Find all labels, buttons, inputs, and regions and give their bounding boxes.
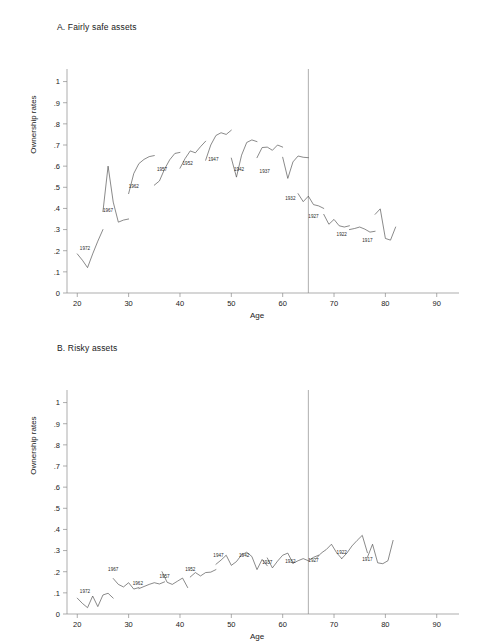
cohort-label: 1922 [337, 232, 348, 237]
y-tick-label: .5 [54, 183, 60, 192]
cohort-label: 1957 [157, 167, 168, 172]
figure-page: A. Fairly safe assets Ownership rates 0.… [0, 0, 484, 642]
panel-a-plot: 0.1.2.3.4.5.6.7.8.912030405060708090Age … [0, 0, 484, 321]
x-tick-label: 40 [176, 299, 184, 308]
x-tick-label: 20 [73, 620, 81, 629]
y-tick-label: .8 [54, 120, 60, 129]
x-axis-title: Age [250, 632, 265, 641]
y-tick-label: .9 [54, 420, 60, 429]
x-tick-label: 30 [124, 620, 132, 629]
cohort-label: 1932 [285, 559, 296, 564]
series-cohort-1947 [206, 130, 232, 160]
cohort-label: 1937 [262, 560, 273, 565]
cohort-label: 1917 [362, 238, 373, 243]
y-tick-label: .3 [54, 546, 60, 555]
series-cohort-1967 [103, 166, 129, 222]
x-tick-label: 20 [73, 299, 81, 308]
x-tick-label: 80 [381, 299, 389, 308]
series-cohort-1972 [77, 593, 113, 607]
cohort-label: 1932 [285, 196, 296, 201]
y-tick-label: .6 [54, 483, 60, 492]
x-tick-label: 30 [124, 299, 132, 308]
cohort-label: 1942 [234, 167, 245, 172]
y-tick-label: .2 [54, 568, 60, 577]
cohort-label: 1947 [208, 157, 219, 162]
panel-b-plot: 0.1.2.3.4.5.6.7.8.912030405060708090Age … [0, 321, 484, 642]
x-tick-label: 40 [176, 620, 184, 629]
cohort-label: 1942 [239, 553, 250, 558]
cohort-label: 1937 [260, 169, 271, 174]
series-cohort-1917 [349, 227, 375, 232]
series-cohort-1937 [257, 145, 283, 158]
cohort-label: 1962 [129, 184, 140, 189]
cohort-label: 1952 [183, 161, 194, 166]
panel-fairly-safe-assets: A. Fairly safe assets Ownership rates 0.… [0, 0, 484, 321]
cohort-label: 1952 [185, 567, 196, 572]
cohort-label: 1972 [80, 246, 91, 251]
series-cohort-1922 [324, 214, 350, 227]
series-cohort-1927 [298, 194, 324, 209]
y-tick-label: .7 [54, 141, 60, 150]
y-tick-label: 1 [56, 398, 60, 407]
y-tick-label: .8 [54, 441, 60, 450]
x-tick-label: 80 [381, 620, 389, 629]
y-tick-label: 0 [56, 610, 60, 619]
y-tick-label: .4 [54, 204, 60, 213]
cohort-label: 1927 [308, 214, 319, 219]
y-tick-label: .7 [54, 462, 60, 471]
y-tick-label: .6 [54, 162, 60, 171]
cohort-label: 1947 [213, 553, 224, 558]
x-tick-label: 60 [279, 620, 287, 629]
x-tick-label: 50 [227, 620, 235, 629]
x-tick-label: 60 [279, 299, 287, 308]
cohort-label: 1967 [108, 567, 119, 572]
y-tick-label: 1 [56, 77, 60, 86]
cohort-label: 1917 [362, 557, 373, 562]
y-tick-label: .2 [54, 247, 60, 256]
y-tick-label: .5 [54, 504, 60, 513]
series-cohort-tail [375, 209, 396, 240]
y-tick-label: 0 [56, 289, 60, 298]
x-tick-label: 70 [330, 299, 338, 308]
y-tick-label: .3 [54, 225, 60, 234]
y-tick-label: .1 [54, 268, 60, 277]
cohort-label: 1967 [103, 208, 114, 213]
cohort-label: 1922 [337, 550, 348, 555]
y-tick-label: .1 [54, 589, 60, 598]
x-tick-label: 90 [433, 620, 441, 629]
x-axis-title: Age [250, 311, 265, 320]
cohort-label: 1957 [159, 574, 170, 579]
cohort-label: 1972 [80, 589, 91, 594]
x-tick-label: 50 [227, 299, 235, 308]
cohort-label: 1962 [133, 581, 144, 586]
x-tick-label: 70 [330, 620, 338, 629]
cohort-label: 1927 [308, 558, 319, 563]
series-cohort-1932 [283, 156, 309, 178]
panel-risky-assets: B. Risky assets Ownership rates 0.1.2.3.… [0, 321, 484, 642]
y-tick-label: .4 [54, 525, 60, 534]
y-tick-label: .9 [54, 99, 60, 108]
x-tick-label: 90 [433, 299, 441, 308]
